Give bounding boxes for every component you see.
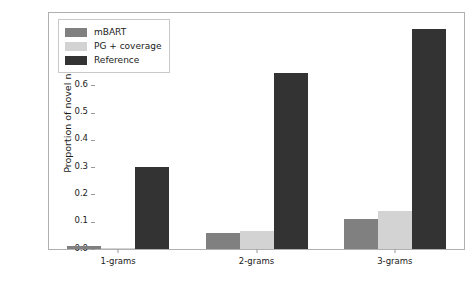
y-tick-label: 0.6 (74, 79, 88, 89)
bar-2-grams-pg-coverage (240, 231, 274, 249)
y-tick-mark (91, 113, 95, 114)
y-tick-label: 0.1 (74, 215, 88, 225)
legend-swatch-icon (65, 28, 87, 37)
bar-2-grams-reference (274, 73, 308, 249)
chart-legend: mBARTPG + coverageReference (58, 19, 170, 73)
bar-3-grams-mbart (344, 219, 378, 249)
y-tick-mark (91, 249, 95, 250)
y-tick-mark (91, 194, 95, 195)
x-tick-mark (394, 249, 395, 253)
figure-canvas: Proportion of novel n-grams 0.00.10.20.3… (0, 0, 475, 284)
bar-1-grams-pg-coverage (101, 248, 135, 249)
y-tick-mark (91, 85, 95, 86)
legend-label: mBART (94, 28, 126, 37)
y-tick-mark (91, 167, 95, 168)
y-tick-mark (91, 140, 95, 141)
bar-3-grams-reference (412, 29, 446, 249)
bar-3-grams-pg-coverage (378, 211, 412, 249)
bar-1-grams-reference (135, 167, 169, 249)
legend-label: PG + coverage (94, 42, 161, 51)
y-tick-mark (91, 222, 95, 223)
legend-swatch-icon (65, 42, 87, 51)
y-tick-label: 0.3 (74, 161, 88, 171)
plot-area: Proportion of novel n-grams 0.00.10.20.3… (48, 12, 465, 250)
x-tick-label-1-grams: 1-grams (101, 256, 136, 266)
bar-2-grams-mbart (206, 233, 240, 249)
legend-item-mbart[interactable]: mBART (65, 25, 161, 39)
y-tick-label: 0.4 (74, 133, 88, 143)
y-tick-label: 0.2 (74, 188, 88, 198)
x-tick-mark (256, 249, 257, 253)
legend-item-pg-coverage[interactable]: PG + coverage (65, 39, 161, 53)
y-tick-label: 0.5 (74, 106, 88, 116)
x-tick-label-2-grams: 2-grams (239, 256, 274, 266)
bar-1-grams-mbart (67, 246, 101, 249)
legend-item-reference[interactable]: Reference (65, 53, 161, 67)
x-tick-label-3-grams: 3-grams (377, 256, 412, 266)
legend-swatch-icon (65, 56, 87, 65)
x-tick-mark (118, 249, 119, 253)
legend-label: Reference (94, 56, 139, 65)
